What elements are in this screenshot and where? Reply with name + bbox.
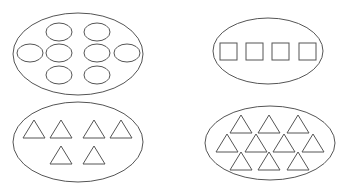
group-triangles-6 xyxy=(13,102,143,182)
group-squares xyxy=(213,18,323,84)
oval-item xyxy=(84,66,110,84)
triangle-item xyxy=(50,146,72,164)
square-item xyxy=(246,43,263,60)
triangle-item xyxy=(258,152,280,170)
oval-item xyxy=(114,44,140,62)
triangle-item xyxy=(23,120,45,138)
triangle-item xyxy=(273,134,295,152)
square-item xyxy=(299,43,316,60)
oval-item xyxy=(84,23,110,41)
oval-item xyxy=(46,23,72,41)
triangle-item xyxy=(83,120,105,138)
triangle-item xyxy=(258,115,280,133)
triangle-item xyxy=(230,152,252,170)
square-item xyxy=(272,43,289,60)
square-item xyxy=(220,43,237,60)
oval-item xyxy=(46,66,72,84)
triangle-item xyxy=(216,134,238,152)
oval-item xyxy=(17,44,43,62)
set-container-ellipse xyxy=(13,13,143,95)
triangle-item xyxy=(83,146,105,164)
set-container-ellipse xyxy=(213,18,323,84)
triangle-item xyxy=(245,134,267,152)
triangle-item xyxy=(287,115,309,133)
triangle-item xyxy=(302,134,324,152)
group-triangles-10 xyxy=(205,106,335,180)
set-container-ellipse xyxy=(13,102,143,182)
triangle-item xyxy=(50,120,72,138)
oval-item xyxy=(46,44,72,62)
triangle-item xyxy=(230,115,252,133)
oval-item xyxy=(84,44,110,62)
triangle-item xyxy=(110,120,132,138)
sets-diagram xyxy=(0,0,345,194)
triangle-item xyxy=(287,152,309,170)
group-ovals xyxy=(13,13,143,95)
